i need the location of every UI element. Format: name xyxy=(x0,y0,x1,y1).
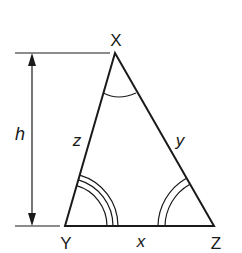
side-label-x: x xyxy=(136,232,146,251)
triangle-xyz xyxy=(65,53,214,226)
height-label-h: h xyxy=(15,124,25,144)
angle-arc-y-1 xyxy=(77,186,107,226)
vertex-label-x: X xyxy=(110,31,121,50)
angle-arc-y-2 xyxy=(78,180,113,226)
triangle-diagram: X Y Z x y z h xyxy=(0,0,242,253)
angle-arc-x xyxy=(104,93,137,97)
side-label-y: y xyxy=(175,131,186,150)
vertex-label-y: Y xyxy=(60,234,71,253)
vertex-label-z: Z xyxy=(211,234,221,253)
angle-arc-z-1 xyxy=(165,185,190,227)
side-label-z: z xyxy=(72,131,82,150)
arrow-up-icon xyxy=(28,53,36,66)
arrow-down-icon xyxy=(28,213,36,226)
